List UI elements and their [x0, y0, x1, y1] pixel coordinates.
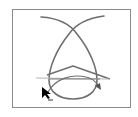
loop-path [41, 16, 104, 99]
chevron-shape [47, 66, 110, 79]
baseline [36, 78, 110, 79]
diagram-canvas [0, 0, 138, 117]
